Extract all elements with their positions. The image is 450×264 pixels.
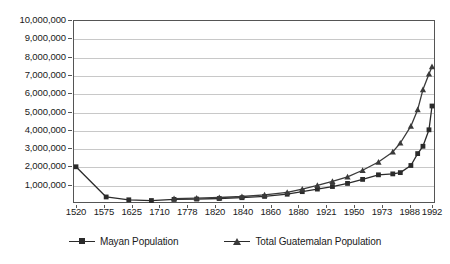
x-axis-tick-label: 1880 (288, 207, 308, 217)
x-axis-tick-label: 1992 (422, 207, 442, 217)
y-axis-tick-label: 9,000,000 (0, 34, 66, 44)
y-axis-tick-label: 4,000,000 (0, 125, 66, 135)
data-point-triangle (360, 167, 366, 173)
series-plot (73, 20, 435, 203)
legend-item-mayan-population[interactable]: Mayan Population (69, 236, 178, 247)
y-axis-tick-label: 10,000,000 (0, 15, 66, 25)
series-line (174, 67, 432, 199)
y-axis-tick-label: 6,000,000 (0, 88, 66, 98)
population-line-chart: 10,000,000 9,000,000 8,000,000 7,000,000… (0, 0, 450, 264)
y-axis-tick-label: 7,000,000 (0, 70, 66, 80)
y-axis-tick-label: 5,000,000 (0, 107, 66, 117)
x-axis-tick-label: 1778 (177, 207, 197, 217)
data-point-square (408, 163, 413, 168)
data-point-square (360, 177, 365, 182)
data-point-square (421, 144, 426, 149)
x-axis-tick-label: 1921 (316, 207, 336, 217)
data-point-square (345, 181, 350, 186)
triangle-marker-icon (224, 237, 250, 247)
x-axis-tick-label: 1820 (205, 207, 225, 217)
y-axis-tick-label: 8,000,000 (0, 52, 66, 62)
x-axis-tick-label: 1950 (344, 207, 364, 217)
legend-item-label: Mayan Population (100, 236, 178, 247)
x-axis-tick-label: 1625 (121, 207, 141, 217)
data-point-square (376, 172, 381, 177)
x-axis-tick-label: 1860 (260, 207, 280, 217)
data-point-square (427, 127, 432, 132)
y-axis-tick-label: 2,000,000 (0, 162, 66, 172)
data-point-square (398, 170, 403, 175)
y-axis-labels: 10,000,000 9,000,000 8,000,000 7,000,000… (0, 20, 66, 203)
data-point-square (74, 164, 79, 169)
x-axis-tick-label: 1840 (233, 207, 253, 217)
data-point-triangle (426, 71, 432, 77)
x-axis-tick-label: 1973 (372, 207, 392, 217)
chart-legend: Mayan Population Total Guatemalan Popula… (0, 236, 450, 247)
series-line (76, 106, 432, 201)
y-axis-tick-label: 3,000,000 (0, 143, 66, 153)
x-axis-tick-label: 1520 (66, 207, 86, 217)
data-point-triangle (408, 123, 414, 129)
x-axis-labels: 1520 1575 1625 1710 1778 1820 1840 1860 … (73, 205, 435, 221)
square-marker-icon (69, 237, 95, 247)
data-point-triangle (415, 107, 421, 113)
data-point-square (104, 195, 109, 200)
legend-item-total-guatemalan-population[interactable]: Total Guatemalan Population (224, 236, 381, 247)
data-point-square (149, 198, 154, 203)
x-axis-tick-label: 1710 (149, 207, 169, 217)
data-point-triangle (420, 86, 426, 92)
legend-item-label: Total Guatemalan Population (255, 236, 381, 247)
y-axis-tick-label: 1,000,000 (0, 180, 66, 190)
data-point-triangle (429, 64, 435, 70)
x-axis-tick-label: 1575 (94, 207, 114, 217)
data-point-square (330, 184, 335, 189)
data-point-square (126, 197, 131, 202)
data-point-square (430, 104, 435, 109)
data-point-square (415, 151, 420, 156)
x-axis-tick-label: 1988 (399, 207, 419, 217)
data-point-triangle (344, 174, 350, 180)
data-point-square (390, 172, 395, 177)
